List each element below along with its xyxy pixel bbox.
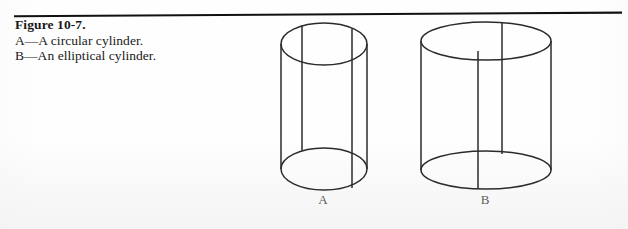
cylinder-b-bottom-ellipse: [421, 151, 551, 189]
cylinder-a-drawing: [281, 23, 367, 190]
cylinder-b-drawing: [421, 22, 551, 189]
cylinder-a-bottom-ellipse: [281, 148, 367, 190]
cylinder-a-top-ellipse: [281, 23, 367, 65]
cylinder-b-top-ellipse: [421, 22, 551, 60]
figure-label-b: B: [473, 192, 497, 208]
figure-page: Figure 10-7. A—A circular cylinder. B—An…: [0, 0, 628, 229]
figure-illustrations: A B: [0, 0, 628, 229]
figure-label-a: A: [311, 192, 335, 208]
